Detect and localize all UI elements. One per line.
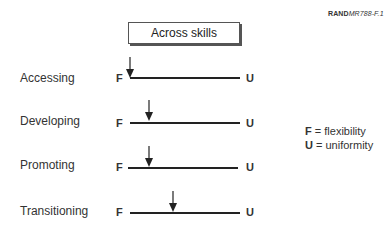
scale-line — [130, 122, 240, 124]
row-label-developing: Developing — [20, 114, 80, 128]
flexibility-end-label: F — [116, 161, 123, 173]
position-arrow-icon — [144, 100, 154, 122]
legend-text: = flexibility — [312, 125, 366, 137]
row-label-accessing: Accessing — [20, 71, 75, 85]
uniformity-end-label: U — [246, 72, 254, 84]
flexibility-end-label: F — [116, 206, 123, 218]
flexibility-end-label: F — [116, 117, 123, 129]
legend-flexibility: F = flexibility — [305, 125, 366, 137]
row-label-transitioning: Transitioning — [20, 204, 88, 218]
position-arrow-icon — [144, 146, 154, 168]
position-arrow-icon — [125, 57, 135, 79]
row-label-promoting: Promoting — [20, 158, 75, 172]
position-arrow-icon — [168, 191, 178, 213]
scale-line — [130, 212, 240, 214]
legend-key: U — [305, 139, 313, 151]
figure-id-prefix: RAND — [328, 10, 349, 17]
legend-key: F — [305, 125, 312, 137]
legend-uniformity: U = uniformity — [305, 139, 373, 151]
flexibility-end-label: F — [116, 72, 123, 84]
across-skills-header: Across skills — [128, 22, 240, 44]
uniformity-end-label: U — [246, 117, 254, 129]
legend-text: = uniformity — [313, 139, 373, 151]
figure-id-suffix: MR788-F.1 — [349, 10, 384, 17]
uniformity-end-label: U — [246, 161, 254, 173]
uniformity-end-label: U — [246, 206, 254, 218]
scale-line — [130, 77, 240, 79]
figure-id: RANDMR788-F.1 — [328, 10, 384, 17]
